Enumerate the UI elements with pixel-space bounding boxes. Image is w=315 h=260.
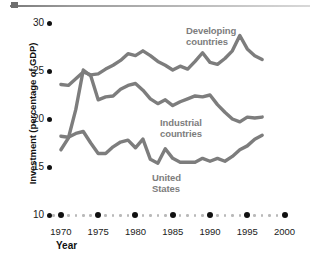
developing-countries-label-line2: countries — [186, 36, 236, 47]
industrial-countries-label: Industrial countries — [160, 117, 202, 139]
united-states-label-line2: States — [152, 183, 181, 194]
united-states-label: United States — [152, 172, 181, 194]
industrial-countries-label-line2: countries — [160, 128, 202, 139]
x-axis-title: Year — [56, 240, 77, 251]
series-lines — [61, 35, 262, 163]
industrial-countries-label-line1: Industrial — [160, 117, 202, 128]
developing-countries-label: Developing countries — [186, 25, 236, 47]
chart-figure: Investment (percentage of GDP) 101520253… — [0, 0, 315, 260]
plot-area — [0, 0, 315, 260]
united-states-label-line1: United — [152, 172, 181, 183]
developing-countries-label-line1: Developing — [186, 25, 236, 36]
